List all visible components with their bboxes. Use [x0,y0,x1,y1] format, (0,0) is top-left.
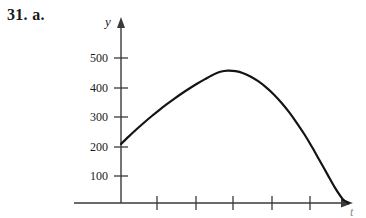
figure-page: 31. a. y t 500 400 300 200 100 [0,0,366,218]
y-tick-label-100: 100 [90,169,108,183]
y-tick-label-500: 500 [90,51,108,65]
y-tick-label-300: 300 [90,110,108,124]
x-axis-label: t [350,205,354,218]
graph-plot: y t 500 400 300 200 100 [0,0,366,218]
y-tick-label-200: 200 [90,140,108,154]
y-tick-label-group: 500 400 300 200 100 [90,51,108,183]
projectile-curve [121,71,348,203]
y-axis-label: y [103,14,111,29]
y-tick-label-400: 400 [90,81,108,95]
y-axis-arrow-icon [117,17,125,28]
